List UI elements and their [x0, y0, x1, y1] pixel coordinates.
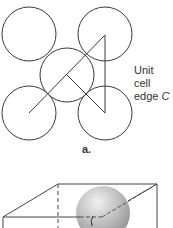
half-diagonal-line: [67, 75, 105, 113]
atom-circle-top-left: [2, 7, 56, 61]
panel-a-label: a.: [82, 143, 91, 156]
cube-body-diagonal-outer: [128, 184, 157, 201]
unit-cell-label-line2: edge C: [134, 90, 173, 103]
unit-cell-edge-label: Unit cell edge C: [134, 64, 173, 103]
edge-variable: C: [162, 90, 170, 102]
panel-a-diagram: [0, 0, 173, 228]
edge-word: edge: [134, 90, 162, 102]
cube-left-top-diagonal: [3, 184, 58, 217]
sphere: [76, 186, 130, 228]
unit-cell-label-line1: Unit cell: [134, 64, 173, 90]
